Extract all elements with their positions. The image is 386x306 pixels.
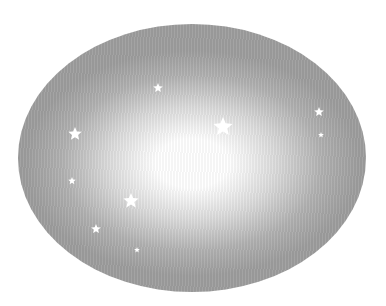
- star-field: [0, 0, 386, 306]
- star-icon: [91, 224, 101, 233]
- star-icon: [318, 132, 324, 137]
- star-icon: [213, 117, 232, 135]
- star-icon: [134, 247, 140, 252]
- star-icon: [314, 107, 324, 116]
- star-icon: [153, 83, 163, 92]
- star-icon: [68, 177, 76, 184]
- star-icon: [68, 127, 81, 140]
- star-icon: [123, 193, 138, 207]
